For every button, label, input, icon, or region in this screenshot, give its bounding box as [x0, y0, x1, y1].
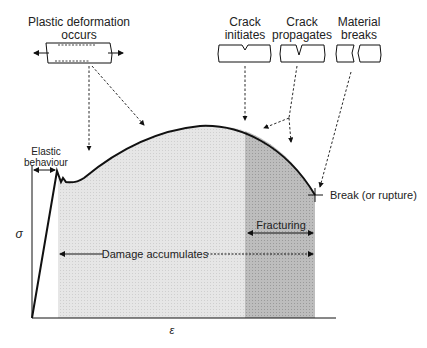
- specimen-crack-initiates-icon: [218, 45, 271, 62]
- label-breaks-line2: breaks: [341, 28, 377, 42]
- label-damage: Damage accumulates: [102, 248, 209, 260]
- y-axis-label: σ: [15, 227, 23, 241]
- damage-region: [58, 126, 245, 318]
- label-break: Break (or rupture): [330, 189, 417, 201]
- label-elastic-line2: behaviour: [24, 157, 69, 168]
- x-axis-label: ε: [170, 324, 175, 336]
- label-crack-init-line1: Crack: [229, 15, 261, 29]
- label-crack-prop-line1: Crack: [286, 15, 318, 29]
- label-crack-prop-line2: propagates: [272, 28, 332, 42]
- label-plastic-line2: occurs: [61, 28, 96, 42]
- label-crack-init-line2: initiates: [225, 28, 266, 42]
- specimen-crack-propagates-icon: [280, 45, 325, 62]
- label-plastic-line1: Plastic deformation: [28, 15, 130, 29]
- specimen-material-breaks-icon: [336, 45, 381, 62]
- label-breaks-line1: Material: [338, 15, 381, 29]
- label-fracturing: Fracturing: [256, 219, 306, 231]
- label-elastic-line1: Elastic: [31, 146, 60, 157]
- specimen-plastic-icon: [34, 43, 123, 63]
- stress-strain-diagram: Plastic deformation occurs Crack initiat…: [0, 0, 427, 348]
